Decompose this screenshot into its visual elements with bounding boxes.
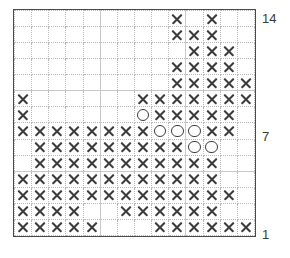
- chart-cell[interactable]: [203, 43, 220, 59]
- chart-cell[interactable]: [49, 75, 66, 91]
- chart-cell[interactable]: [169, 107, 186, 123]
- chart-cell[interactable]: [49, 91, 66, 107]
- chart-cell[interactable]: [134, 43, 151, 59]
- chart-cell[interactable]: [15, 123, 32, 139]
- chart-cell[interactable]: [49, 219, 66, 235]
- chart-cell[interactable]: [169, 91, 186, 107]
- chart-cell[interactable]: [117, 59, 134, 75]
- chart-cell[interactable]: [134, 91, 151, 107]
- chart-cell[interactable]: [220, 59, 237, 75]
- chart-cell[interactable]: [186, 43, 203, 59]
- chart-cell[interactable]: [152, 91, 169, 107]
- chart-cell[interactable]: [32, 171, 49, 187]
- chart-cell[interactable]: [152, 11, 169, 27]
- chart-cell[interactable]: [83, 91, 100, 107]
- chart-cell[interactable]: [32, 75, 49, 91]
- chart-cell[interactable]: [237, 203, 254, 219]
- chart-cell[interactable]: [134, 139, 151, 155]
- chart-cell[interactable]: [100, 43, 117, 59]
- chart-cell[interactable]: [134, 155, 151, 171]
- chart-cell[interactable]: [49, 203, 66, 219]
- chart-cell[interactable]: [49, 43, 66, 59]
- chart-cell[interactable]: [83, 187, 100, 203]
- chart-cell[interactable]: [66, 107, 83, 123]
- chart-cell[interactable]: [237, 187, 254, 203]
- chart-cell[interactable]: [152, 139, 169, 155]
- chart-cell[interactable]: [134, 107, 151, 123]
- chart-cell[interactable]: [134, 203, 151, 219]
- chart-grid[interactable]: [13, 9, 256, 237]
- chart-cell[interactable]: [100, 27, 117, 43]
- chart-cell[interactable]: [117, 187, 134, 203]
- chart-cell[interactable]: [100, 75, 117, 91]
- chart-cell[interactable]: [186, 11, 203, 27]
- chart-cell[interactable]: [134, 171, 151, 187]
- chart-cell[interactable]: [83, 123, 100, 139]
- chart-cell[interactable]: [117, 155, 134, 171]
- chart-cell[interactable]: [100, 155, 117, 171]
- chart-cell[interactable]: [15, 187, 32, 203]
- chart-cell[interactable]: [203, 123, 220, 139]
- chart-cell[interactable]: [100, 219, 117, 235]
- chart-cell[interactable]: [203, 11, 220, 27]
- chart-cell[interactable]: [100, 107, 117, 123]
- chart-cell[interactable]: [237, 155, 254, 171]
- chart-cell[interactable]: [100, 11, 117, 27]
- chart-cell[interactable]: [220, 171, 237, 187]
- chart-cell[interactable]: [100, 59, 117, 75]
- chart-cell[interactable]: [83, 219, 100, 235]
- chart-cell[interactable]: [83, 59, 100, 75]
- chart-cell[interactable]: [237, 139, 254, 155]
- chart-cell[interactable]: [32, 187, 49, 203]
- chart-cell[interactable]: [220, 155, 237, 171]
- chart-cell[interactable]: [152, 171, 169, 187]
- chart-cell[interactable]: [186, 123, 203, 139]
- chart-cell[interactable]: [32, 91, 49, 107]
- chart-cell[interactable]: [49, 155, 66, 171]
- chart-cell[interactable]: [237, 219, 254, 235]
- chart-cell[interactable]: [186, 75, 203, 91]
- chart-cell[interactable]: [220, 203, 237, 219]
- chart-cell[interactable]: [237, 59, 254, 75]
- chart-cell[interactable]: [66, 203, 83, 219]
- chart-cell[interactable]: [49, 59, 66, 75]
- chart-cell[interactable]: [66, 219, 83, 235]
- chart-cell[interactable]: [32, 203, 49, 219]
- chart-cell[interactable]: [15, 107, 32, 123]
- chart-cell[interactable]: [83, 203, 100, 219]
- chart-cell[interactable]: [237, 107, 254, 123]
- chart-cell[interactable]: [15, 91, 32, 107]
- chart-cell[interactable]: [237, 171, 254, 187]
- chart-cell[interactable]: [83, 171, 100, 187]
- chart-cell[interactable]: [66, 11, 83, 27]
- chart-cell[interactable]: [220, 123, 237, 139]
- chart-cell[interactable]: [220, 91, 237, 107]
- chart-cell[interactable]: [32, 11, 49, 27]
- chart-cell[interactable]: [169, 11, 186, 27]
- chart-cell[interactable]: [49, 107, 66, 123]
- chart-cell[interactable]: [237, 75, 254, 91]
- chart-cell[interactable]: [134, 219, 151, 235]
- chart-cell[interactable]: [203, 203, 220, 219]
- chart-cell[interactable]: [15, 171, 32, 187]
- chart-cell[interactable]: [15, 155, 32, 171]
- chart-cell[interactable]: [32, 219, 49, 235]
- chart-cell[interactable]: [49, 11, 66, 27]
- chart-cell[interactable]: [203, 187, 220, 203]
- chart-cell[interactable]: [83, 139, 100, 155]
- chart-cell[interactable]: [203, 219, 220, 235]
- chart-cell[interactable]: [152, 155, 169, 171]
- chart-cell[interactable]: [220, 75, 237, 91]
- chart-cell[interactable]: [203, 27, 220, 43]
- chart-cell[interactable]: [100, 91, 117, 107]
- chart-cell[interactable]: [203, 107, 220, 123]
- chart-cell[interactable]: [15, 43, 32, 59]
- chart-cell[interactable]: [237, 11, 254, 27]
- chart-cell[interactable]: [49, 139, 66, 155]
- chart-cell[interactable]: [203, 171, 220, 187]
- chart-cell[interactable]: [152, 187, 169, 203]
- chart-cell[interactable]: [100, 203, 117, 219]
- chart-cell[interactable]: [152, 27, 169, 43]
- chart-cell[interactable]: [83, 11, 100, 27]
- chart-cell[interactable]: [66, 123, 83, 139]
